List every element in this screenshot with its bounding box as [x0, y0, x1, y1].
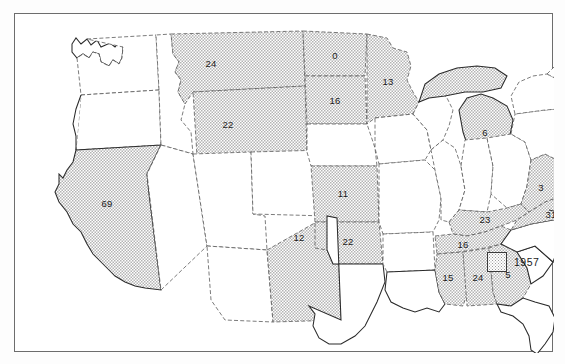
value-label-CA: 69: [101, 198, 112, 209]
value-label-SD: 16: [329, 95, 340, 106]
legend-swatch-1957: [487, 252, 507, 272]
value-label-NM: 12: [293, 232, 304, 243]
state-CA[interactable]: [55, 145, 161, 290]
us-map[interactable]: 69 24 22 12 0 16 13 11 22 6 23 16 15 24 …: [15, 14, 554, 353]
map-figure-page: 69 24 22 12 0 16 13 11 22 6 23 16 15 24 …: [0, 0, 565, 364]
value-label-MS: 15: [442, 272, 453, 283]
state-AR[interactable]: [383, 232, 435, 272]
value-label-WY: 22: [222, 119, 233, 130]
map-legend: 1957: [487, 252, 539, 272]
state-NY[interactable]: [511, 74, 554, 114]
state-NE[interactable]: [307, 124, 377, 166]
value-label-VA: 31: [545, 209, 554, 220]
state-MI-up[interactable]: [419, 66, 507, 102]
state-WY[interactable]: [193, 86, 307, 156]
state-IN[interactable]: [459, 138, 493, 212]
state-AZ[interactable]: [207, 246, 273, 322]
value-label-OK: 22: [342, 236, 353, 247]
figure-frame: 69 24 22 12 0 16 13 11 22 6 23 16 15 24 …: [14, 13, 553, 352]
value-label-KY: 23: [479, 214, 490, 225]
value-label-AL: 24: [472, 272, 483, 283]
value-label-ND: 0: [332, 50, 338, 61]
value-label-TN: 16: [457, 239, 468, 250]
state-MO[interactable]: [379, 160, 441, 234]
value-label-WV: 3: [538, 182, 544, 193]
legend-label-1957: 1957: [514, 256, 539, 268]
state-OR[interactable]: [76, 90, 161, 150]
state-FL[interactable]: [497, 298, 554, 353]
state-LA[interactable]: [385, 270, 445, 312]
value-label-KS: 11: [338, 188, 348, 199]
value-label-MT: 24: [205, 58, 216, 69]
value-label-MI: 6: [482, 127, 488, 138]
value-label-MN: 13: [382, 76, 393, 87]
